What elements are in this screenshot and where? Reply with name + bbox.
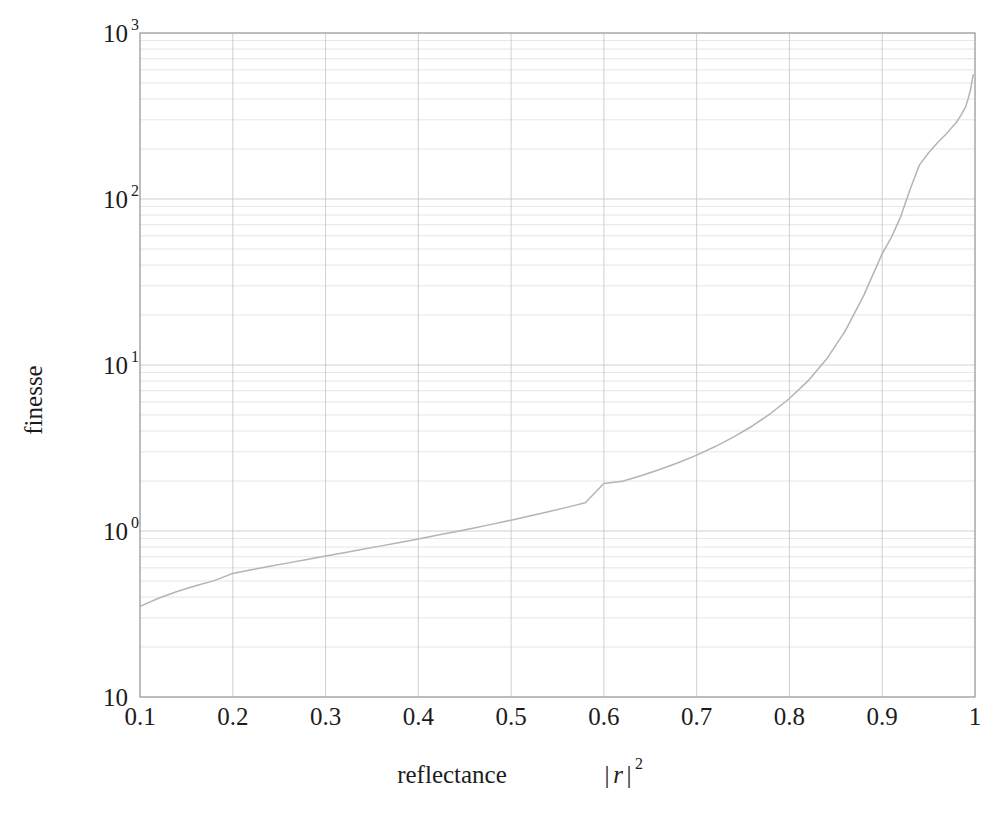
y-tick-mantissa: 10	[103, 352, 128, 379]
y-tick-mantissa: 10	[103, 20, 128, 47]
y-axis-title-text: finesse	[20, 365, 47, 434]
x-tick-label: 0.7	[681, 703, 712, 730]
chart-background	[0, 0, 1005, 817]
x-axis-title-exponent: 2	[635, 755, 643, 772]
x-tick-label: 0.4	[403, 703, 435, 730]
x-tick-label: 1	[969, 703, 982, 730]
figure-container: 10100101102103 0.10.20.30.40.50.60.70.80…	[0, 0, 1005, 817]
finesse-vs-reflectance-chart: 10100101102103 0.10.20.30.40.50.60.70.80…	[0, 0, 1005, 817]
x-axis-title-text: reflectance	[397, 761, 507, 788]
x-axis-title-bar-left: |	[604, 761, 609, 788]
x-axis-title-symbol: r	[613, 761, 623, 788]
y-tick-exponent: 0	[131, 514, 139, 531]
x-tick-label: 0.5	[495, 703, 526, 730]
y-tick-exponent: 2	[131, 182, 139, 199]
x-tick-label: 0.2	[217, 703, 248, 730]
y-tick-exponent: 1	[131, 348, 139, 365]
y-tick-mantissa: 10	[103, 518, 128, 545]
x-tick-label: 0.3	[310, 703, 341, 730]
y-tick-exponent: 3	[131, 16, 139, 33]
y-axis-title: finesse	[20, 365, 47, 434]
x-tick-label: 0.8	[774, 703, 805, 730]
y-tick-mantissa: 10	[103, 186, 128, 213]
x-tick-label: 0.6	[588, 703, 619, 730]
x-tick-label: 0.1	[124, 703, 155, 730]
x-axis-title-bar-right: |	[626, 761, 631, 788]
x-tick-label: 0.9	[867, 703, 898, 730]
